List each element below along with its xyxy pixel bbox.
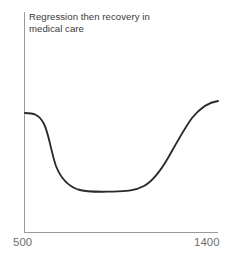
x-axis-tick-label-start: 500: [13, 236, 32, 248]
chart-figure: Regression then recovery in medical care…: [0, 0, 240, 259]
data-series-line: [25, 101, 218, 192]
chart-title: Regression then recovery in medical care: [29, 11, 189, 34]
x-axis-tick-label-end: 1400: [194, 236, 220, 248]
chart-canvas: [0, 0, 240, 259]
chart-title-line-1: Regression then recovery in: [29, 11, 150, 22]
chart-title-line-2: medical care: [29, 23, 84, 34]
